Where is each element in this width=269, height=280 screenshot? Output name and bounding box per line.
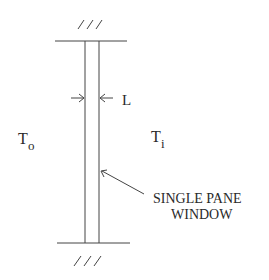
inside-temperature-subscript: i [161, 136, 165, 151]
outside-temperature-subscript: o [28, 138, 35, 153]
callout-label-line1: SINGLE PANE [153, 191, 242, 206]
top-support-hatch [78, 20, 102, 29]
outside-temperature-label: T [18, 130, 28, 147]
thickness-label: L [122, 92, 131, 108]
window-diagram: L T o T i SINGLE PANE WINDOW [0, 0, 269, 280]
bottom-support-hatch [74, 256, 101, 266]
callout-label-line2: WINDOW [171, 207, 233, 222]
callout-leader-arrow [101, 170, 144, 194]
thickness-dimension-arrows [71, 94, 113, 102]
inside-temperature-label: T [151, 128, 161, 145]
